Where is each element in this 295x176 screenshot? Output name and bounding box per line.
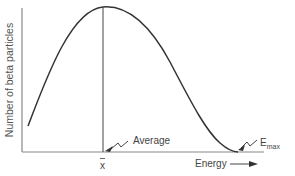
average-arrow-icon bbox=[105, 141, 128, 152]
spectrum-curve bbox=[28, 7, 238, 152]
emax-main: E bbox=[260, 137, 267, 148]
spectrum-diagram bbox=[0, 0, 295, 176]
emax-subscript: max bbox=[267, 143, 280, 150]
emax-arrow-icon bbox=[238, 140, 257, 151]
y-axis-label-wrap: Number of beta particles bbox=[2, 8, 16, 152]
energy-arrow-icon bbox=[230, 161, 258, 167]
y-axis-label: Number of beta particles bbox=[4, 23, 15, 137]
mean-marker: x bbox=[100, 160, 105, 171]
average-label: Average bbox=[133, 136, 170, 146]
mean-marker-text: x bbox=[100, 160, 105, 171]
emax-label: Emax bbox=[260, 138, 280, 148]
x-axis-label: Energy bbox=[195, 159, 227, 169]
